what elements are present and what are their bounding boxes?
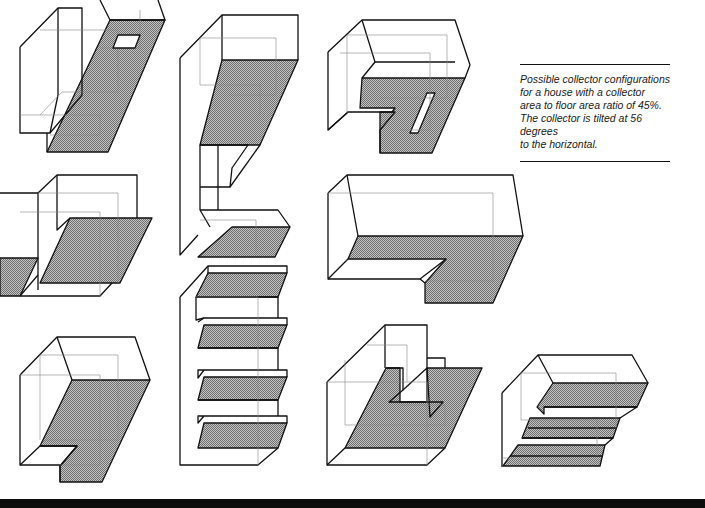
caption-line-3: area to floor area ratio of 45%.	[520, 99, 662, 111]
figure-caption: Possible collector configurations for a …	[520, 64, 670, 162]
config-5-figure	[328, 175, 523, 303]
config-9-figure	[502, 355, 648, 467]
config-7-figure	[20, 337, 150, 482]
config-8-figure	[327, 325, 482, 465]
caption-top-rule	[520, 64, 670, 65]
caption-line-5: to the horizontal.	[520, 138, 598, 150]
caption-text: Possible collector configurations for a …	[520, 73, 670, 151]
caption-bottom-rule	[520, 161, 670, 162]
config-1-figure	[20, 0, 165, 152]
config-6-figure	[180, 266, 287, 465]
config-2-figure	[180, 15, 298, 257]
config-4-figure	[0, 175, 152, 296]
config-3-figure	[328, 20, 470, 153]
caption-line-1: Possible collector configurations	[520, 73, 670, 85]
page-bottom-rule	[0, 499, 705, 508]
caption-line-2: for a house with a collector	[520, 86, 645, 98]
caption-line-4: The collector is tilted at 56 degrees	[520, 112, 642, 137]
